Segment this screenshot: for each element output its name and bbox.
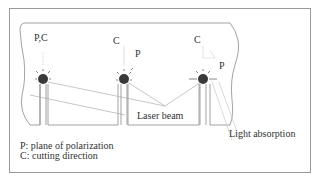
legend-cutting: C: cutting direction xyxy=(20,151,98,160)
hole-2-cutting-label: C xyxy=(113,36,120,46)
laser-beam-label: Laser beam xyxy=(137,111,183,121)
legend-polarization: P: plane of polarization xyxy=(20,141,114,150)
hole-2-polarization-label: P xyxy=(135,49,141,59)
hole-3 xyxy=(189,46,217,125)
hole-3-polarization-label: P xyxy=(219,61,225,71)
kerf-slot-1 xyxy=(48,84,118,125)
hole-3-cutting-label: C xyxy=(194,35,201,45)
hole-1-label: P,C xyxy=(34,33,48,43)
light-absorption-label: Light absorption xyxy=(229,129,295,139)
hole-1 xyxy=(35,52,51,125)
hole-2 xyxy=(116,46,133,125)
